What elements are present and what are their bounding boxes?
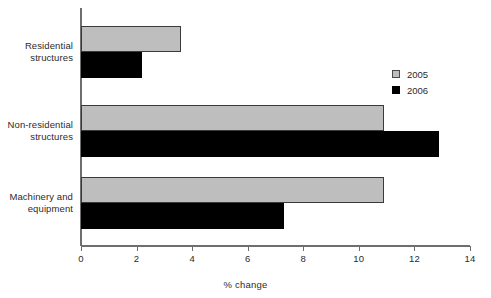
bar-chart: 02468101214 ResidentialstructuresNon-res…: [0, 0, 491, 298]
legend-label-2005: 2005: [407, 69, 428, 80]
legend-item-2005[interactable]: 2005: [392, 66, 428, 82]
x-tick-12: [414, 246, 415, 251]
x-tick-label-14: 14: [465, 253, 476, 264]
category-label-line: structures: [0, 131, 73, 144]
legend-item-2006[interactable]: 2006: [392, 82, 428, 98]
x-tick-label-10: 10: [353, 253, 364, 264]
x-axis-title: % change: [0, 279, 491, 290]
x-tick-10: [359, 246, 360, 251]
category-label-line: structures: [0, 52, 73, 65]
category-label-2: Machinery andequipment: [0, 191, 73, 216]
category-label-0: Residentialstructures: [0, 40, 73, 65]
legend-label-2006: 2006: [407, 85, 428, 96]
x-axis-line: [81, 245, 470, 247]
legend-swatch-icon-2006: [392, 86, 400, 94]
x-tick-label-12: 12: [409, 253, 420, 264]
bar-2006-0[interactable]: [81, 52, 142, 78]
x-tick-label-8: 8: [301, 253, 306, 264]
legend-swatch-icon-2005: [392, 70, 400, 78]
bar-2006-2[interactable]: [81, 203, 284, 229]
x-tick-0: [81, 246, 82, 251]
bar-2005-2[interactable]: [81, 177, 384, 203]
x-tick-4: [192, 246, 193, 251]
category-label-line: Machinery and: [0, 191, 73, 204]
category-label-1: Non-residentialstructures: [0, 119, 73, 144]
x-tick-8: [303, 246, 304, 251]
x-tick-label-4: 4: [189, 253, 194, 264]
bar-2005-0[interactable]: [81, 26, 181, 52]
bar-2006-1[interactable]: [81, 131, 439, 157]
bar-2005-1[interactable]: [81, 105, 384, 131]
x-tick-14: [470, 246, 471, 251]
category-label-line: Non-residential: [0, 119, 73, 132]
x-tick-6: [248, 246, 249, 251]
x-tick-label-2: 2: [134, 253, 139, 264]
x-tick-label-0: 0: [78, 253, 83, 264]
x-tick-2: [137, 246, 138, 251]
x-tick-label-6: 6: [245, 253, 250, 264]
legend: 2005 2006: [392, 66, 428, 98]
category-label-line: equipment: [0, 203, 73, 216]
category-label-line: Residential: [0, 40, 73, 53]
